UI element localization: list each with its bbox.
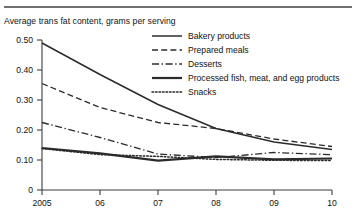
y-tick-label: 0.30 xyxy=(16,95,33,105)
y-tick-label: 0.40 xyxy=(16,65,33,75)
legend-item-snacks[interactable]: Snacks xyxy=(152,87,216,97)
y-tick-label: 0.20 xyxy=(16,125,33,135)
y-tick-label: 0.10 xyxy=(16,155,33,165)
series-line-prepared-meals xyxy=(42,84,332,147)
legend-label: Bakery products xyxy=(188,31,250,41)
figure-container: Average trans fat content, grams per ser… xyxy=(0,0,356,214)
legend-item-processed-fish-meat-egg[interactable]: Processed fish, meat, and egg products xyxy=(152,73,339,83)
y-axis-ticks xyxy=(37,40,42,190)
x-tick-label: 07 xyxy=(153,198,163,208)
legend-item-prepared-meals[interactable]: Prepared meals xyxy=(152,45,249,55)
legend-item-bakery-products[interactable]: Bakery products xyxy=(152,31,250,41)
line-chart: 0.50 0.40 0.30 0.20 0.10 0 2005 06 07 08… xyxy=(0,0,356,214)
legend-label: Snacks xyxy=(188,87,216,97)
x-tick-label: 09 xyxy=(269,198,279,208)
x-axis-labels: 2005 06 07 08 09 10 xyxy=(32,198,337,208)
x-tick-label: 2005 xyxy=(32,198,51,208)
x-tick-label: 10 xyxy=(327,198,337,208)
x-tick-label: 08 xyxy=(211,198,221,208)
series-group xyxy=(42,43,332,161)
legend-label: Prepared meals xyxy=(188,45,249,55)
y-tick-label: 0 xyxy=(28,185,33,195)
y-axis-labels: 0.50 0.40 0.30 0.20 0.10 0 xyxy=(16,35,33,195)
legend-item-desserts[interactable]: Desserts xyxy=(152,59,222,69)
y-tick-label: 0.50 xyxy=(16,35,33,45)
x-axis-ticks xyxy=(42,190,332,195)
chart-legend: Bakery products Prepared meals Desserts … xyxy=(152,31,339,97)
legend-label: Processed fish, meat, and egg products xyxy=(188,73,339,83)
x-tick-label: 06 xyxy=(95,198,105,208)
series-line-processed-fish-meat-egg xyxy=(42,148,332,161)
legend-label: Desserts xyxy=(188,59,222,69)
